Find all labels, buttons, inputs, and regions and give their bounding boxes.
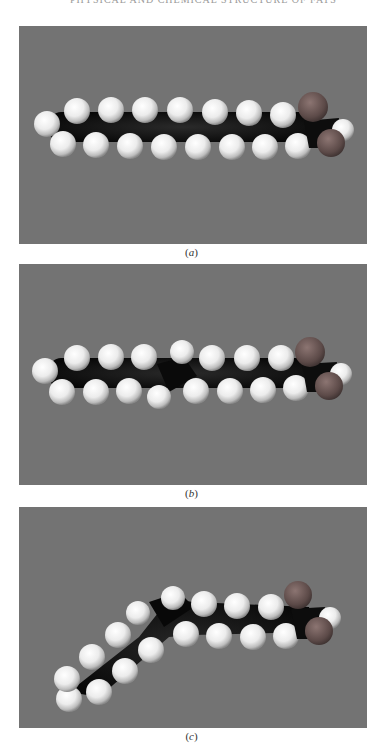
running-head: PHYSICAL AND CHEMICAL STRUCTURE OF FATS bbox=[70, 0, 320, 5]
molecule-model-c bbox=[19, 507, 367, 728]
figure-panel-a bbox=[19, 26, 367, 244]
molecule-model-a bbox=[19, 26, 367, 244]
caption-paren: ) bbox=[194, 246, 198, 258]
figure-panel-c bbox=[19, 507, 367, 728]
caption-a: (a) bbox=[0, 246, 383, 258]
caption-b: (b) bbox=[0, 487, 383, 499]
caption-paren: ) bbox=[194, 730, 198, 742]
caption-c: (c) bbox=[0, 730, 383, 742]
caption-paren: ) bbox=[194, 487, 198, 499]
molecule-model-b bbox=[19, 264, 367, 485]
figure-panel-b bbox=[19, 264, 367, 485]
